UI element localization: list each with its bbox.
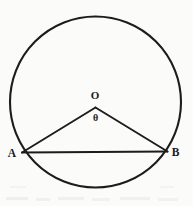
vertex-label-a: A <box>8 147 17 159</box>
center-point-label-o: O <box>91 89 100 101</box>
chord-segment-ab <box>22 152 168 153</box>
angle-label-theta: θ <box>93 112 98 123</box>
radius-segment-oa <box>22 108 96 153</box>
circle-geometry-diagram: O θ A B <box>0 0 193 206</box>
vertex-label-b: B <box>172 146 180 158</box>
geometry-figure-canvas: O θ A B <box>0 0 193 206</box>
radius-segment-ob <box>96 108 168 152</box>
circle-outline <box>10 17 181 188</box>
